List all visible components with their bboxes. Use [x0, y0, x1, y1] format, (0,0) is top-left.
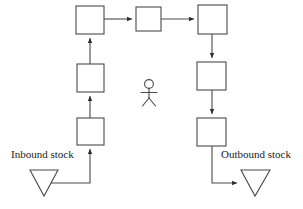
process-flow-diagram: Inbound stock Outbound stock	[0, 0, 303, 209]
process-box-5[interactable]	[198, 5, 227, 34]
process-box-group	[76, 5, 227, 146]
diagram-canvas: Inbound stock Outbound stock	[0, 0, 303, 209]
process-box-7[interactable]	[197, 118, 226, 146]
process-box-2[interactable]	[77, 64, 104, 92]
process-box-3[interactable]	[76, 6, 104, 34]
outbound-stock-triangle[interactable]	[241, 170, 270, 196]
outbound-stock-label: Outbound stock	[221, 148, 291, 160]
actor-leg-right	[149, 98, 156, 106]
process-box-1[interactable]	[77, 118, 104, 145]
actor-leg-left	[143, 98, 150, 106]
actor-head-icon	[145, 80, 154, 89]
process-box-6[interactable]	[197, 62, 226, 90]
inbound-stock-label: Inbound stock	[11, 148, 74, 160]
process-box-4[interactable]	[136, 7, 161, 31]
stick-figure-actor	[141, 80, 157, 106]
